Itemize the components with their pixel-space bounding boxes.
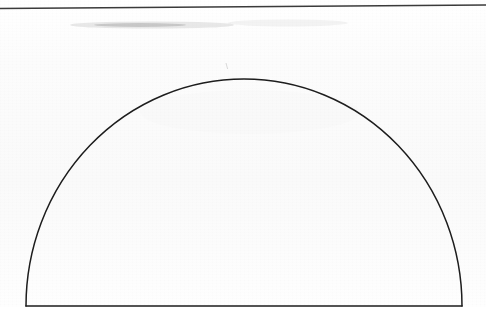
scan-smudge-upper-left-core bbox=[94, 23, 186, 27]
top-horizontal-rule bbox=[0, 5, 486, 9]
scanned-page bbox=[0, 0, 486, 329]
scan-smudge-upper-right bbox=[228, 20, 348, 27]
scan-artifact-group bbox=[26, 20, 462, 312]
scan-shadow-bottom-edge bbox=[26, 309, 462, 312]
pencil-tick-above-apex bbox=[226, 63, 228, 69]
drawing-canvas bbox=[0, 0, 486, 329]
